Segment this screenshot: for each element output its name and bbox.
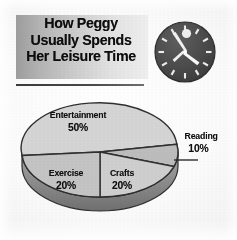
title-line-1: How Peggy	[18, 15, 143, 32]
pie-label-entertainment-percent: 50%	[33, 122, 123, 134]
pie-label-crafts-name: Crafts	[99, 168, 144, 180]
title-divider-rule	[16, 84, 144, 86]
pie-label-crafts-percent: 20%	[99, 180, 144, 192]
pie-label-entertainment-name: Entertainment	[33, 110, 123, 122]
pie-label-reading-name: Reading	[185, 131, 234, 143]
pie-label-entertainment: Entertainment 50%	[33, 110, 123, 134]
pie-label-reading: Reading 10%	[185, 131, 234, 155]
pie-label-crafts: Crafts 20%	[99, 168, 144, 192]
title-line-3: Her Leisure Time	[18, 48, 143, 65]
title-line-2: Usually Spends	[18, 32, 143, 49]
page-title: How Peggy Usually Spends Her Leisure Tim…	[18, 15, 143, 65]
pie-label-exercise-name: Exercise	[40, 168, 93, 180]
analog-clock-icon	[153, 20, 217, 84]
pie-label-reading-percent: 10%	[188, 143, 233, 155]
pie-label-exercise: Exercise 20%	[40, 168, 93, 192]
leisure-time-pie-chart-poster: How Peggy Usually Spends Her Leisure Tim…	[0, 0, 237, 240]
pie-label-exercise-percent: 20%	[40, 180, 93, 192]
